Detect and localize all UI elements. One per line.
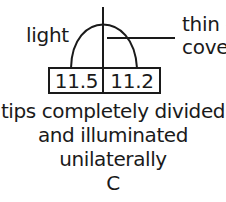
right-value: 11.2 xyxy=(104,70,160,92)
cover-label-line1: thin g xyxy=(182,14,226,34)
caption-line-1: tips completely divided xyxy=(0,98,226,124)
cover-label-line2: cover xyxy=(182,37,226,57)
panel-label: C xyxy=(0,170,226,196)
caption-line-2: and illuminated xyxy=(0,122,226,148)
light-label: light xyxy=(26,25,69,45)
caption-line-3: unilaterally xyxy=(0,146,226,172)
left-value: 11.5 xyxy=(50,70,103,92)
